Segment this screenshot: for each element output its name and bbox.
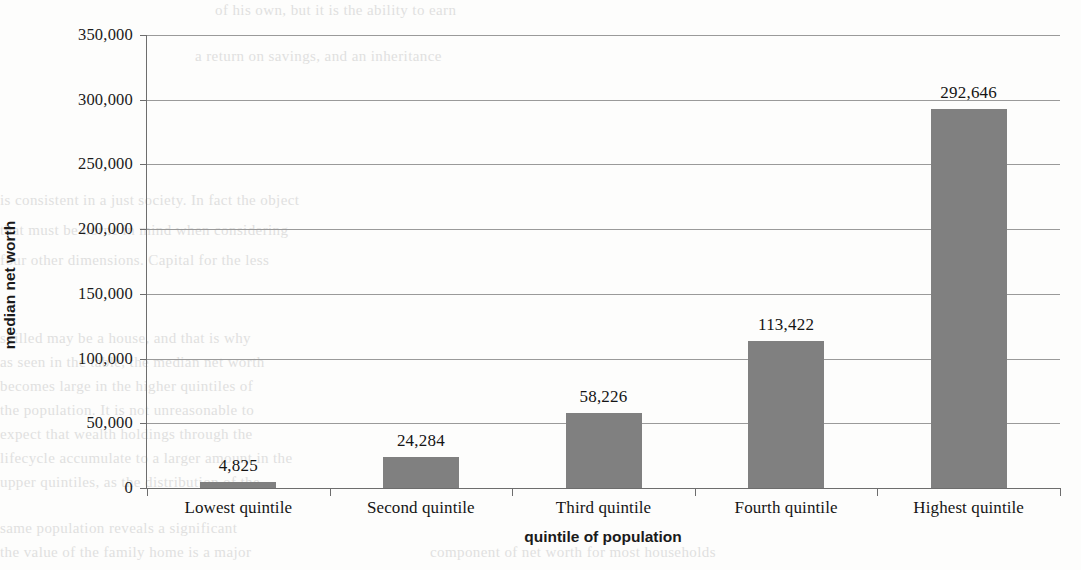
y-axis-tick (140, 488, 147, 489)
x-axis-tick (877, 488, 878, 496)
y-axis-tick (140, 229, 147, 230)
chart-page: of his own, but it is the ability to ear… (0, 0, 1081, 570)
bar-value-label: 4,825 (219, 456, 258, 476)
x-axis-tick (512, 488, 513, 496)
x-axis-tick (1060, 488, 1061, 496)
gridline (147, 35, 1060, 36)
x-axis-tick (147, 488, 148, 496)
y-axis-tick-label: 300,000 (78, 90, 133, 110)
bar[interactable] (931, 109, 1007, 488)
gridline (147, 164, 1060, 165)
y-axis-tick (140, 100, 147, 101)
gridline (147, 488, 1060, 489)
gridline (147, 294, 1060, 295)
y-axis-tick-label: 50,000 (86, 413, 133, 433)
bar-value-label: 24,284 (397, 431, 445, 451)
bar-chart: median net worth 050,000100,000150,00020… (0, 0, 1081, 570)
y-axis-tick (140, 294, 147, 295)
x-axis-tick (330, 488, 331, 496)
plot-area (147, 35, 1060, 488)
x-axis-category-label: Second quintile (367, 498, 475, 518)
gridline (147, 359, 1060, 360)
x-axis-category-label: Lowest quintile (184, 498, 292, 518)
x-axis-category-label: Third quintile (556, 498, 651, 518)
x-axis-title: quintile of population (524, 528, 682, 546)
gridline (147, 100, 1060, 101)
y-axis-tick-label: 350,000 (78, 25, 133, 45)
bar[interactable] (748, 341, 824, 488)
x-axis-category-label: Fourth quintile (735, 498, 838, 518)
y-axis-tick-label: 200,000 (78, 219, 133, 239)
bar[interactable] (383, 457, 459, 488)
bar[interactable] (566, 413, 642, 488)
gridline (147, 229, 1060, 230)
bar-value-label: 292,646 (940, 83, 997, 103)
y-axis-tick (140, 164, 147, 165)
y-axis-tick-label: 250,000 (78, 154, 133, 174)
y-axis-tick-label: 100,000 (78, 349, 133, 369)
y-axis-tick-label: 150,000 (78, 284, 133, 304)
y-axis-tick (140, 35, 147, 36)
y-axis-labels: 050,000100,000150,000200,000250,000300,0… (0, 0, 133, 570)
bar-value-label: 58,226 (580, 387, 628, 407)
bar[interactable] (200, 482, 276, 488)
y-axis-tick-label: 0 (125, 478, 133, 498)
x-axis-category-label: Highest quintile (913, 498, 1024, 518)
y-axis-tick (140, 359, 147, 360)
x-axis-tick (695, 488, 696, 496)
bar-value-label: 113,422 (758, 315, 814, 335)
y-axis-tick (140, 423, 147, 424)
